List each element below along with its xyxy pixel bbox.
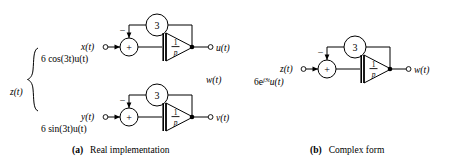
branch-cos-summer-plus-sign: + [126, 42, 132, 53]
branch-complex-source-tail: u(t) [270, 77, 284, 88]
branch-complex-input-arrow-icon [313, 67, 319, 72]
panel-a-caption-tag: (a) [72, 145, 83, 156]
block-diagram-svg: z(t) 6 cos(3t)u(t) x(t) + − [0, 0, 454, 166]
panel-b-caption-text: Complex form [329, 145, 385, 155]
panel-b-caption-tag: (b) [310, 145, 322, 156]
branch-cos-integrator-denominator: p [173, 48, 178, 57]
branch-cos-gain-value: 3 [155, 20, 160, 31]
panel-a-caption-text: Real implementation [90, 145, 170, 155]
branch-sin-source-expr: 6 sin(3t)u(t) [41, 124, 87, 135]
branch-complex-output-terminal-icon [406, 67, 411, 72]
branch-complex: z(t) 6ej3tu(t) + − 3 [254, 36, 429, 88]
branch-sin-integrator-numerator: 1 [174, 108, 178, 117]
branch-sin-gain-value: 3 [155, 90, 160, 101]
panel-b: z(t) 6ej3tu(t) + − 3 [254, 36, 429, 156]
branch-cos-output-terminal-icon [208, 45, 213, 50]
panel-a-group-label: z(t) [9, 87, 23, 98]
figure-container: z(t) 6 cos(3t)u(t) x(t) + − [0, 0, 454, 166]
branch-cos-minus-sign: − [120, 25, 126, 36]
panel-a: z(t) 6 cos(3t)u(t) x(t) + − [9, 14, 230, 156]
branch-cos-output-label: u(t) [216, 43, 230, 54]
branch-complex-summer-plus-sign: + [324, 64, 330, 75]
branch-sin-minus-sign: − [120, 95, 126, 106]
branch-complex-integrator-denominator: p [371, 70, 376, 79]
branch-sin: 6 sin(3t)u(t) y(t) + − 3 [41, 84, 229, 135]
branch-cos-input-arrow-icon [115, 45, 121, 50]
branch-cos-feedback-arrow-icon [127, 33, 132, 39]
branch-complex-feedback-arrow-icon [325, 55, 330, 61]
branch-complex-output-label: w(t) [414, 65, 429, 76]
branch-cos-input-label: x(t) [80, 42, 94, 53]
branch-sin-integrator-denominator: p [173, 118, 178, 127]
branch-sin-input-arrow-icon [115, 115, 121, 120]
branch-sin-summer-plus-sign: + [126, 112, 132, 123]
branch-cos-input-terminal-icon [103, 45, 108, 50]
branch-sin-input-label: y(t) [80, 112, 94, 123]
branch-cos-source-expr: 6 cos(3t)u(t) [41, 54, 88, 65]
panel-b-caption: (b) Complex form [310, 139, 385, 156]
panel-a-caption: (a) Real implementation [72, 139, 170, 156]
branch-cos: 6 cos(3t)u(t) x(t) + − [41, 14, 230, 65]
branch-complex-integrator-numerator: 1 [372, 60, 376, 69]
branch-complex-source-expr: 6ej3tu(t) [254, 76, 284, 89]
branch-sin-output-label: v(t) [216, 113, 229, 124]
panel-a-brace [28, 48, 39, 111]
branch-complex-source-base: 6e [254, 77, 263, 87]
branch-complex-minus-sign: − [318, 47, 324, 58]
branch-complex-input-label: z(t) [279, 64, 293, 75]
branch-sin-feedback-arrow-icon [127, 103, 132, 109]
branch-complex-gain-value: 3 [353, 42, 358, 53]
panel-a-middle-label: w(t) [206, 75, 221, 86]
branch-sin-output-terminal-icon [208, 115, 213, 120]
branch-cos-integrator-numerator: 1 [174, 38, 178, 47]
branch-sin-input-terminal-icon [103, 115, 108, 120]
branch-complex-input-terminal-icon [301, 67, 306, 72]
branch-complex-source-exponent: j3t [262, 76, 270, 83]
